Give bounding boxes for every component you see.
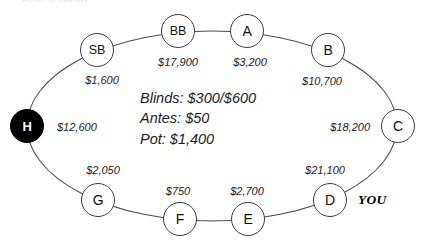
seat-stack-sb: $1,600 [85, 75, 119, 86]
seat-node-e[interactable]: E [231, 202, 265, 236]
seat-node-label: F [176, 212, 184, 226]
seat-node-bb[interactable]: BB [161, 14, 195, 48]
table-info-block: Blinds: $300/$600 Antes: $50 Pot: $1,400 [140, 88, 256, 149]
seat-node-c[interactable]: C [381, 109, 415, 143]
seat-node-f[interactable]: F [163, 202, 197, 236]
seat-node-sb[interactable]: SB [80, 33, 114, 67]
seat-stack-bb: $17,900 [158, 57, 198, 68]
seat-stack-b: $10,700 [302, 76, 342, 87]
seat-node-h[interactable]: H [10, 109, 44, 143]
seat-node-label: G [93, 193, 104, 207]
seat-node-label: B [323, 43, 332, 57]
seat-node-g[interactable]: G [81, 183, 115, 217]
seat-stack-g: $2,050 [86, 165, 120, 176]
seat-stack-a: $3,200 [233, 57, 267, 68]
seat-stack-c: $18,200 [330, 122, 370, 133]
seat-node-label: E [243, 212, 252, 226]
seat-node-label: BB [170, 25, 186, 38]
pot-line: Pot: $1,400 [140, 129, 256, 149]
antes-line: Antes: $50 [140, 108, 256, 128]
seat-node-a[interactable]: A [230, 14, 264, 48]
seat-stack-f: $750 [166, 186, 190, 197]
seat-stack-h: $12,600 [57, 122, 97, 133]
seat-node-label: SB [89, 44, 105, 57]
seat-node-label: A [242, 24, 251, 38]
poker-ring-diagram: POKER HAND H$12,600SB$1,600BB$17,900A$3,… [0, 0, 424, 250]
you-marker: YOU [358, 192, 386, 208]
seat-stack-d: $21,100 [305, 165, 345, 176]
seat-node-label: C [393, 119, 403, 133]
seat-node-b[interactable]: B [311, 33, 345, 67]
blinds-line: Blinds: $300/$600 [140, 88, 256, 108]
seat-node-label: H [22, 120, 31, 133]
seat-stack-e: $2,700 [230, 186, 264, 197]
seat-node-label: D [325, 193, 335, 207]
seat-node-d[interactable]: D [313, 183, 347, 217]
